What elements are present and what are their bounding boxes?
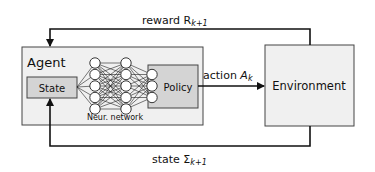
network-label: Neur. network (87, 113, 143, 122)
action-label: action Ak (203, 69, 253, 83)
neuron-node (90, 58, 100, 68)
policy-box-label: Policy (164, 82, 193, 93)
state-box-label: State (39, 83, 65, 94)
rl-diagram: Agent State Policy Neur. network Environ… (0, 0, 375, 172)
environment-label: Environment (272, 79, 346, 93)
neuron-node (147, 92, 157, 102)
state-subscript: k+1 (190, 158, 206, 167)
action-subscript: k (248, 74, 253, 83)
agent-label: Agent (27, 55, 65, 70)
neuron-node (147, 81, 157, 91)
action-text: action (203, 69, 240, 82)
state-label: state Σk+1 (152, 153, 207, 167)
neuron-node (121, 81, 131, 91)
reward-label: reward Rk+1 (142, 14, 208, 28)
neuron-node (90, 69, 100, 79)
reward-text: reward R (142, 14, 192, 27)
reward-subscript: k+1 (191, 19, 207, 28)
state-text: state Σ (152, 153, 190, 166)
neuron-node (121, 69, 131, 79)
neuron-node (121, 92, 131, 102)
neuron-node (147, 69, 157, 79)
action-variable: A (239, 69, 248, 82)
neuron-node (90, 81, 100, 91)
neuron-node (90, 92, 100, 102)
reward-edge (50, 29, 310, 46)
neuron-node (121, 58, 131, 68)
